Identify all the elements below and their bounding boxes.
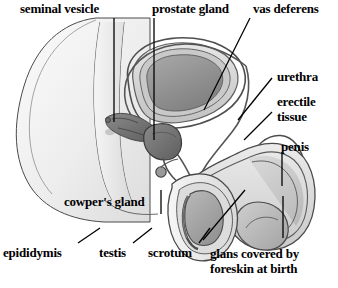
label-seminal-vesicle: seminal vesicle	[20, 2, 99, 16]
label-epididymis: epididymis	[3, 246, 62, 260]
label-scrotum: scrotum	[148, 246, 192, 260]
anatomical-diagram: seminal vesicle prostate gland vas defer…	[0, 0, 338, 288]
label-prostate-gland: prostate gland	[152, 2, 229, 16]
label-urethra: urethra	[277, 70, 318, 84]
label-penis: penis	[281, 140, 309, 154]
label-erectile-tissue: erectile tissue	[277, 94, 333, 124]
label-cowpers-gland: cowper's gland	[64, 195, 145, 209]
label-glans-covered-by-foreskin: glans covered by foreskin at birth	[210, 246, 336, 276]
label-vas-deferens: vas deferens	[253, 2, 319, 16]
label-testis: testis	[99, 246, 126, 260]
